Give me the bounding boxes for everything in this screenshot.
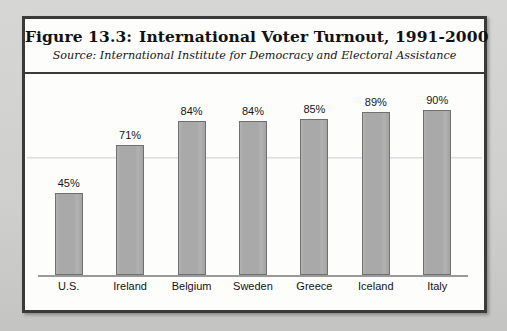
category-label: Belgium [163,280,220,292]
x-axis-line [38,275,468,277]
figure-header: Figure 13.3:International Voter Turnout,… [25,19,484,74]
category-label: Ireland [102,280,159,292]
bar-value-label: 71% [119,130,141,141]
chart-plot-area: 45%71%84%84%85%89%90% U.S.IrelandBelgium… [25,74,484,310]
bar-column: 45% [40,74,97,275]
bar-value-label: 84% [181,106,203,117]
category-label: U.S. [40,280,97,292]
bar-value-label: 89% [365,97,387,108]
bar-rect [423,110,451,275]
bar-rect [300,119,328,275]
category-label: Greece [286,280,343,292]
bar-rect [116,145,144,275]
page-title: Figure 13.3:International Voter Turnout,… [25,27,484,46]
bar-column: 90% [409,74,466,275]
bar-column: 84% [224,74,281,275]
bar-rect [178,121,206,275]
bar-column: 71% [102,74,159,275]
figure-source: Source: International Institute for Demo… [25,49,484,62]
category-label: Iceland [347,280,404,292]
bar-column: 85% [286,74,343,275]
category-label: Sweden [224,280,281,292]
bar-series: 45%71%84%84%85%89%90% [38,74,468,275]
x-axis-category-labels: U.S.IrelandBelgiumSwedenGreeceIcelandIta… [38,280,468,292]
figure-number: Figure 13.3: [25,27,132,46]
bar-value-label: 85% [303,104,325,115]
bar-value-label: 45% [58,178,80,189]
figure-box: Figure 13.3:International Voter Turnout,… [22,16,487,313]
bar-rect [239,121,267,275]
bar-rect [362,112,390,275]
bar-value-label: 90% [426,95,448,106]
category-label: Italy [409,280,466,292]
bar-column: 84% [163,74,220,275]
figure-title-text: International Voter Turnout, 1991-2000 [139,27,488,46]
bar-column: 89% [347,74,404,275]
bar-rect [55,193,83,275]
scanned-page-background: Figure 13.3:International Voter Turnout,… [0,0,507,331]
bar-value-label: 84% [242,106,264,117]
